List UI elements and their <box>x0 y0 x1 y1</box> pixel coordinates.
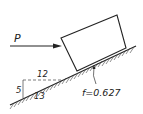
force-label: P <box>14 32 21 45</box>
slope-vertical-label: 5 <box>16 85 21 95</box>
slope-horizontal-label: 12 <box>37 69 48 79</box>
incline-diagram: P 12 5 13 f=0.627 <box>0 0 143 114</box>
friction-leader <box>93 65 97 84</box>
slope-hypotenuse-label: 13 <box>34 91 45 101</box>
block <box>61 15 126 71</box>
friction-label: f=0.627 <box>82 87 121 98</box>
